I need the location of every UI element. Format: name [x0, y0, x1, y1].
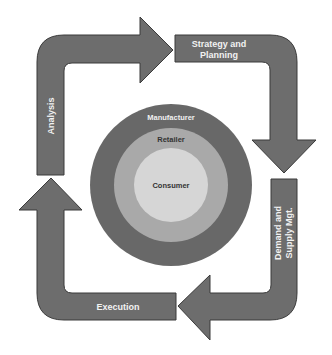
supply-chain-cycle-diagram: Manufacturer Retailer Consumer Analysis …	[0, 0, 332, 355]
execution-label: Execution	[96, 302, 139, 312]
demand-supply-label-line2: Supply Mgt.	[284, 208, 294, 259]
analysis-label: Analysis	[46, 97, 56, 134]
demand-supply-label-line1: Demand and	[273, 206, 283, 260]
manufacturer-label: Manufacturer	[147, 113, 195, 122]
consumer-label: Consumer	[152, 181, 189, 190]
retailer-label: Retailer	[157, 135, 185, 144]
strategy-label-line1: Strategy and	[192, 39, 247, 49]
strategy-label-line2: Planning	[200, 50, 238, 60]
